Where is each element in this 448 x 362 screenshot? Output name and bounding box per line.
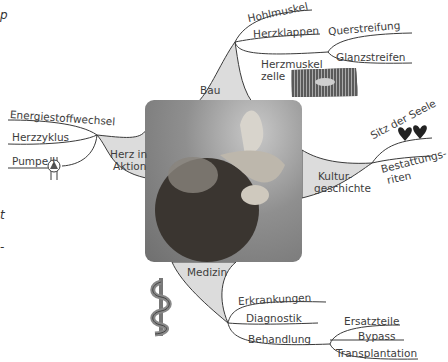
node-bypass: Bypass (358, 330, 395, 342)
muscle-cell-icon (291, 68, 358, 97)
heart-photo (145, 100, 302, 262)
node-herzmuskelzelle-2: zelle (261, 70, 285, 82)
node-diagnostik: Diagnostik (246, 312, 302, 324)
node-glanzstreifen: Glanzstreifen (336, 51, 406, 63)
node-herzzyklus: Herzzyklus (12, 131, 69, 143)
node-transplantation: Transplantation (336, 347, 417, 359)
node-ersatzteile: Ersatzteile (344, 315, 399, 327)
edge-fragment: - (0, 240, 4, 254)
node-herzmuskelzelle-1: Herzmuskel (261, 58, 323, 70)
asclepius-staff-icon (153, 278, 170, 336)
branch-kulturgeschichte-label-1: Kultur- (318, 170, 352, 182)
branch-bau-label: Bau (200, 84, 220, 96)
branch-kulturgeschichte-label-2: geschichte (314, 182, 371, 194)
branch-herz-in-aktion-label-2: Aktion (113, 160, 146, 172)
node-behandlung: Behandlung (248, 333, 311, 345)
branch-herz-in-aktion-label-1: Herz in (110, 148, 147, 160)
edge-fragment: p (0, 8, 8, 22)
node-pumpe: Pumpe ! (12, 155, 56, 167)
edge-fragment: t (0, 208, 5, 222)
branch-medizin-label: Medizin (187, 266, 227, 278)
